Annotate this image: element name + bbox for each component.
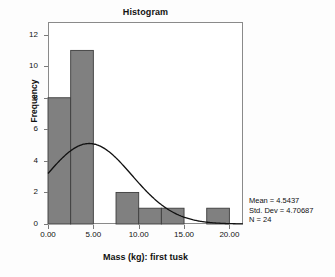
x-axis-tick-label: 0.00	[28, 230, 68, 239]
sample-size-text: N = 24	[249, 215, 313, 225]
histogram-bar	[207, 208, 230, 224]
x-axis-tick-mark	[229, 225, 230, 229]
x-axis-tick-mark	[48, 225, 49, 229]
histogram-bar	[116, 192, 139, 224]
statistics-annotation: Mean = 4.5437 Std. Dev = 4.70687 N = 24	[249, 196, 313, 225]
x-axis-tick-mark	[184, 225, 185, 229]
y-axis-tick-label: 10	[12, 61, 38, 70]
x-axis-tick-label: 20.00	[209, 230, 249, 239]
y-axis-tick-label: 0	[12, 219, 38, 228]
y-axis-tick-mark	[44, 98, 48, 99]
y-axis-tick-mark	[44, 192, 48, 193]
y-axis-tick-label: 8	[12, 93, 38, 102]
y-axis-tick-mark	[44, 66, 48, 67]
x-axis-tick-label: 10.00	[119, 230, 159, 239]
std-dev-text: Std. Dev = 4.70687	[249, 206, 313, 216]
y-axis-tick-mark	[44, 129, 48, 130]
y-axis-tick-label: 6	[12, 124, 38, 133]
y-axis-tick-label: 12	[12, 30, 38, 39]
y-axis-tick-mark	[44, 161, 48, 162]
y-axis-tick-mark	[44, 35, 48, 36]
x-axis-tick-mark	[139, 225, 140, 229]
x-axis-tick-label: 15.00	[164, 230, 204, 239]
mean-text: Mean = 4.5437	[249, 196, 313, 206]
x-axis-tick-label: 5.00	[73, 230, 113, 239]
x-axis-title: Mass (kg): first tusk	[48, 252, 243, 262]
x-axis-tick-mark	[93, 225, 94, 229]
y-axis-tick-label: 4	[12, 156, 38, 165]
histogram-bar	[139, 208, 162, 224]
histogram-bar	[71, 50, 94, 224]
histogram-chart: Histogram Frequency Mass (kg): first tus…	[0, 0, 335, 277]
y-axis-tick-label: 2	[12, 187, 38, 196]
